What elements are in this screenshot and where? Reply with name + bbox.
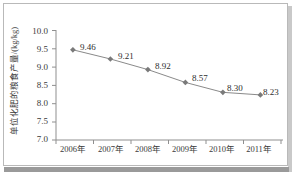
series-line-grain-yield [73, 50, 261, 95]
x-axis-ticks [56, 140, 281, 144]
y-axis-ticks [52, 31, 56, 141]
chart-screenshot: 单位化肥的粮食产量/(kg/kg) 10.0 9.5 9.0 8.5 8.0 7… [0, 0, 294, 174]
series-markers [70, 47, 263, 98]
plot-svg [0, 0, 294, 174]
